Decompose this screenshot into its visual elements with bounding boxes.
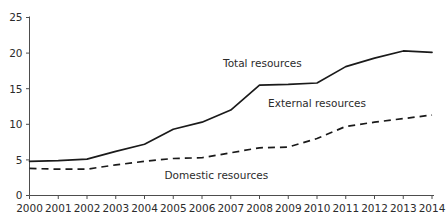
annotation-total-resources: Total resources: [222, 57, 302, 69]
line-chart: 0510152025 20002001200220032004200520062…: [0, 0, 447, 224]
x-tick-label: 2010: [304, 202, 331, 214]
y-tick-label: 0: [16, 189, 23, 201]
x-tick-label: 2002: [74, 202, 101, 214]
x-tick-label: 2008: [246, 202, 273, 214]
y-axis: 0510152025: [9, 11, 29, 201]
x-tick-label: 2005: [160, 202, 187, 214]
y-tick-label: 15: [9, 83, 22, 95]
x-tick-label: 2014: [419, 202, 446, 214]
x-tick-label: 2012: [361, 202, 388, 214]
annotation-external-resources: External resources: [268, 97, 366, 109]
y-tick-label: 20: [9, 47, 22, 59]
series-annotations: Total resourcesExternal resourcesDomesti…: [165, 57, 366, 181]
x-tick-label: 2011: [332, 202, 359, 214]
series-line-external-resources: [30, 115, 433, 169]
x-tick-label: 2004: [131, 202, 158, 214]
x-tick-label: 2013: [390, 202, 417, 214]
y-tick-label: 10: [9, 118, 22, 130]
x-tick-label: 2009: [275, 202, 302, 214]
y-tick-label: 25: [9, 11, 22, 23]
x-tick-label: 2000: [16, 202, 43, 214]
x-tick-label: 2001: [45, 202, 72, 214]
x-tick-label: 2006: [189, 202, 216, 214]
x-axis: 2000200120022003200420052006200720082009…: [16, 196, 446, 214]
chart-canvas: 0510152025 20002001200220032004200520062…: [0, 0, 447, 224]
y-tick-label: 5: [16, 154, 23, 166]
x-tick-label: 2003: [102, 202, 129, 214]
x-tick-label: 2007: [217, 202, 244, 214]
annotation-domestic-resources: Domestic resources: [165, 169, 269, 181]
